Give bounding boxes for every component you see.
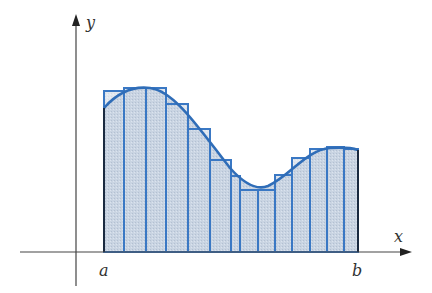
label-a: a: [99, 261, 109, 280]
riemann-rectangle-5: [188, 129, 210, 252]
riemann-rectangle-9: [258, 190, 275, 252]
riemann-rectangle-8: [240, 190, 258, 252]
riemann-rectangle-10: [275, 175, 292, 252]
riemann-rectangle-12: [310, 149, 327, 252]
riemann-rectangle-7: [231, 176, 240, 252]
riemann-rectangle-13: [327, 147, 344, 252]
riemann-rectangle-6: [210, 160, 231, 252]
y-axis-label: y: [85, 13, 96, 32]
riemann-rectangle-3: [146, 88, 166, 252]
x-axis-label: x: [394, 227, 403, 246]
riemann-rectangle-4: [166, 104, 188, 252]
label-b: b: [352, 261, 362, 280]
riemann-sum-figure: y x a b: [0, 0, 432, 293]
y-axis-arrow-icon: [72, 14, 80, 26]
x-axis-arrow-icon: [400, 248, 412, 256]
riemann-rectangle-11: [292, 158, 310, 252]
riemann-rectangle-14: [344, 149, 358, 252]
riemann-rectangle-2: [124, 88, 146, 252]
riemann-rectangle-1: [104, 91, 124, 252]
